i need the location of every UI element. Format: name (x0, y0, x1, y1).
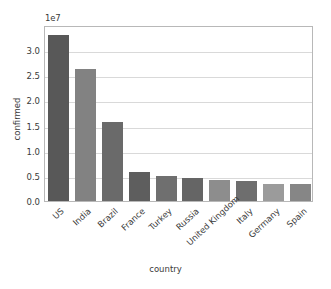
y-axis-tick-label: 3.0 (0, 46, 40, 56)
bar (236, 181, 257, 201)
bar (102, 122, 123, 201)
y-axis-title: confirmed (12, 74, 22, 164)
x-axis-title: country (0, 264, 331, 274)
x-axis-tick-label: India (50, 206, 93, 247)
bar (156, 176, 177, 201)
x-axis-tick-label: Germany (238, 206, 281, 247)
x-axis-tick-label: Turkey (130, 206, 173, 247)
bar-chart-figure: 1e7 0.00.51.01.52.02.53.0 confirmed USIn… (0, 0, 331, 289)
x-axis-tick-label: Spain (265, 206, 308, 247)
x-axis-tick-label: Brazil (77, 206, 120, 247)
gridline (45, 52, 312, 53)
bar (209, 180, 230, 201)
bar (263, 184, 284, 201)
y-axis-tick-label: 0.0 (0, 197, 40, 207)
plot-area (44, 26, 313, 202)
y-axis-tick-label: 0.5 (0, 172, 40, 182)
x-axis-tick-label: United Kingdom (184, 206, 227, 247)
x-axis-tick-label: Russia (157, 206, 200, 247)
y-axis-offset-label: 1e7 (45, 13, 60, 23)
bar (75, 69, 96, 201)
bar (290, 184, 311, 201)
bar (129, 172, 150, 201)
bar (182, 178, 203, 201)
bar (48, 35, 69, 201)
x-axis-tick-label: France (104, 206, 147, 247)
x-axis-tick-label: Italy (211, 206, 254, 247)
